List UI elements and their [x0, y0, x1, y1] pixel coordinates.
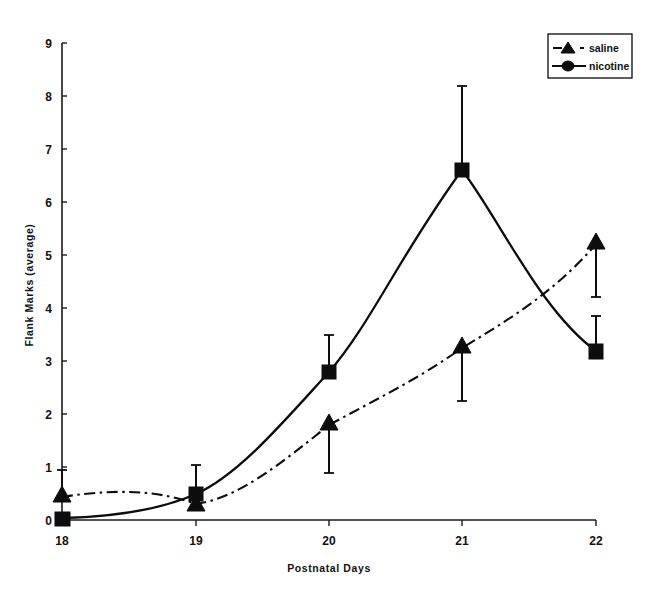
nicotine-point-22	[589, 344, 603, 359]
legend-label-nicotine: nicotine	[589, 60, 629, 72]
x-tick-label-19: 19	[189, 534, 203, 548]
legend-nicotine-square-icon	[562, 61, 574, 71]
line-chart-canvas: 9 8 7 6 5 4 3 2 1 0 18 19 20 21 22 Postn…	[0, 0, 652, 593]
x-axis: 18 19 20 21 22	[55, 520, 603, 548]
x-tick-label-18: 18	[55, 534, 69, 548]
y-tick-label-5: 5	[45, 249, 52, 263]
x-axis-title: Postnatal Days	[287, 562, 371, 574]
x-tick-label-21: 21	[455, 534, 469, 548]
y-axis-title: Flank Marks (average)	[23, 224, 35, 347]
y-axis: 9 8 7 6 5 4 3 2 1 0	[45, 37, 67, 528]
y-tick-label-1: 1	[45, 461, 52, 475]
saline-point-18	[53, 486, 71, 502]
y-tick-label-3: 3	[45, 355, 52, 369]
y-tick-label-4: 4	[45, 302, 52, 316]
y-tick-label-8: 8	[45, 90, 52, 104]
nicotine-point-19	[189, 487, 203, 501]
y-tick-label-2: 2	[45, 408, 52, 422]
chart-figure: 9 8 7 6 5 4 3 2 1 0 18 19 20 21 22 Postn…	[0, 0, 652, 593]
nicotine-point-20	[322, 365, 336, 379]
nicotine-point-21	[455, 163, 469, 177]
chart-legend[interactable]: saline nicotine	[548, 34, 632, 78]
x-tick-label-20: 20	[322, 534, 336, 548]
nicotine-point-18	[55, 512, 70, 526]
y-tick-label-6: 6	[45, 196, 52, 210]
legend-label-saline: saline	[589, 42, 619, 54]
x-tick-label-22: 22	[589, 534, 603, 548]
y-tick-label-7: 7	[45, 143, 52, 157]
y-tick-label-9: 9	[45, 37, 52, 51]
y-tick-label-0: 0	[45, 514, 52, 528]
saline-point-22	[587, 233, 605, 249]
